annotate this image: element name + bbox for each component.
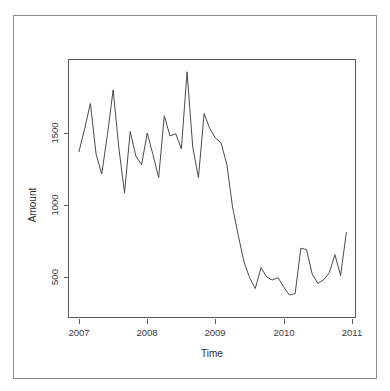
x-axis-ticks bbox=[80, 319, 353, 324]
x-tick-label-2007: 2007 bbox=[68, 327, 89, 338]
y-tick-label-1000: 1000 bbox=[49, 194, 60, 215]
x-axis-title: Time bbox=[201, 348, 223, 359]
x-tick-label-2011: 2011 bbox=[342, 327, 362, 338]
line-chart: 500 1000 1500 Amount 2007 2008 2009 2010… bbox=[0, 0, 390, 391]
plot-box bbox=[69, 60, 356, 318]
x-tick-label-2010: 2010 bbox=[273, 327, 294, 338]
y-tick-label-500: 500 bbox=[49, 269, 60, 285]
y-axis-ticks bbox=[64, 134, 69, 278]
series-line-amount bbox=[79, 72, 346, 295]
y-axis-title: Amount bbox=[27, 188, 38, 223]
y-tick-label-1500: 1500 bbox=[49, 122, 60, 143]
x-tick-label-2009: 2009 bbox=[204, 327, 225, 338]
x-tick-label-2008: 2008 bbox=[136, 327, 157, 338]
figure-canvas: 500 1000 1500 Amount 2007 2008 2009 2010… bbox=[0, 0, 390, 391]
